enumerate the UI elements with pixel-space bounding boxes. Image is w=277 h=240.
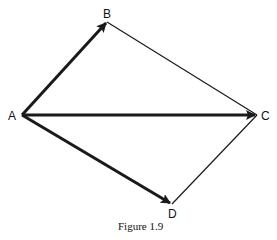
vector-a-d [22,115,170,203]
edge-b-c [107,22,257,115]
vector-parallelogram-diagram: A B C D Figure 1.9 [0,0,277,240]
figure-caption: Figure 1.9 [118,220,164,232]
vector-a-b [22,23,106,115]
point-label-d: D [168,207,177,221]
edge-d-c [172,115,257,204]
point-label-b: B [103,7,111,21]
point-label-a: A [8,109,16,123]
point-label-c: C [261,109,270,123]
